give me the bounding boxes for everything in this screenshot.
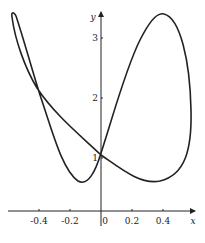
x-tick-label: 0.2	[125, 216, 139, 226]
curve-right-lobe	[101, 14, 191, 182]
curve-left-lobe	[12, 13, 101, 182]
x-tick-label: 0.4	[156, 216, 171, 226]
y-axis-label: y	[89, 12, 96, 22]
x-tick-label: 0	[102, 216, 108, 226]
y-tick-label: 2	[92, 93, 98, 103]
x-axis-label: x	[190, 216, 195, 226]
y-tick-label: 3	[92, 33, 98, 43]
chart-canvas: -0.4 -0.2 0 0.2 0.4 1 2 3 x y	[0, 0, 205, 243]
x-tick-label: -0.4	[30, 216, 48, 226]
x-tick-label: -0.2	[61, 216, 78, 226]
y-tick-label: 1	[92, 153, 98, 163]
